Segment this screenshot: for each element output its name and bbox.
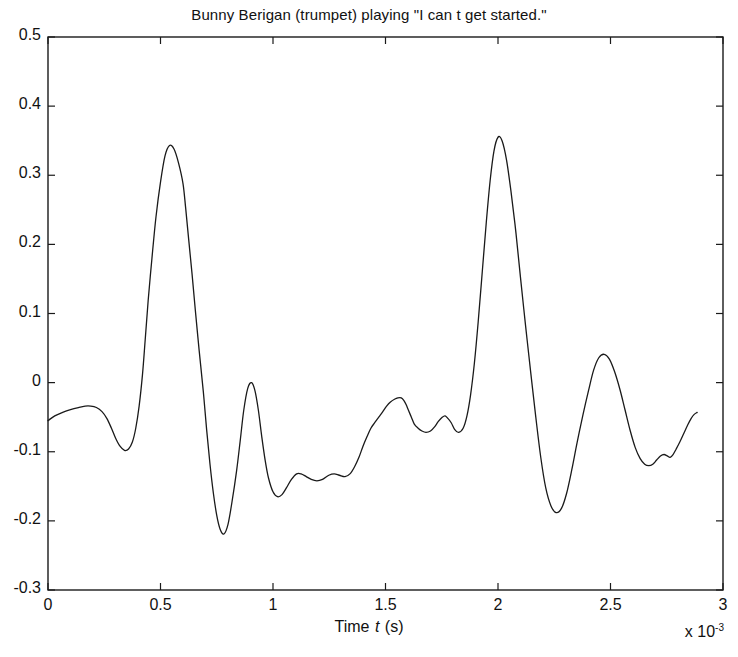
x-axis-label: Time t (s) — [0, 618, 738, 636]
x-axis-label-post: (s) — [380, 618, 403, 635]
x-tick-label: 0.5 — [131, 596, 191, 614]
y-tick-label: -0.3 — [13, 579, 41, 597]
axes-frame — [48, 37, 723, 590]
x-tick-label: 2 — [468, 596, 528, 614]
x-tick-label: 3 — [693, 596, 738, 614]
x-axis-label-pre: Time — [335, 618, 374, 635]
x-axis-multiplier: x 10-3 — [685, 622, 724, 641]
x-axis-multiplier-exponent: -3 — [715, 622, 724, 633]
y-tick-label: 0.4 — [19, 95, 41, 113]
waveform-line — [48, 136, 697, 534]
x-tick-marks — [48, 37, 723, 590]
y-tick-label: -0.2 — [13, 510, 41, 528]
x-tick-label: 1 — [243, 596, 303, 614]
y-tick-label: -0.1 — [13, 441, 41, 459]
y-tick-label: 0.3 — [19, 164, 41, 182]
y-tick-label: 0.2 — [19, 233, 41, 251]
plot-canvas — [0, 0, 738, 657]
x-axis-multiplier-base: x 10 — [685, 623, 715, 640]
y-tick-label: 0 — [32, 372, 41, 390]
x-tick-label: 1.5 — [356, 596, 416, 614]
y-tick-label: 0.1 — [19, 303, 41, 321]
x-tick-label: 0 — [18, 596, 78, 614]
x-tick-label: 2.5 — [581, 596, 641, 614]
figure-container: Bunny Berigan (trumpet) playing "I can t… — [0, 0, 738, 657]
y-tick-marks — [48, 37, 723, 590]
y-tick-label: 0.5 — [19, 26, 41, 44]
